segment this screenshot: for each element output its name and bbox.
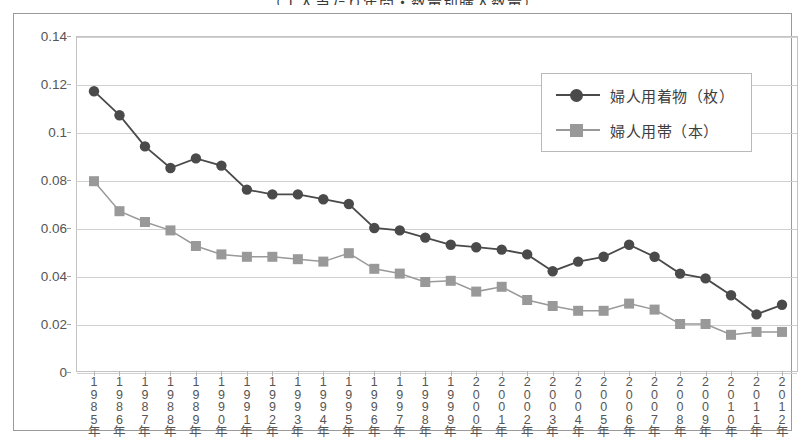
x-axis-tick-mark [629, 371, 630, 376]
y-axis-tick-label: 0.1 [48, 125, 67, 140]
data-point [293, 254, 303, 264]
x-axis-tick-mark [247, 371, 248, 376]
y-axis-tick-label: 0.02 [41, 317, 67, 332]
data-point [191, 241, 201, 251]
y-axis-tick-label: 0.06 [41, 221, 67, 236]
x-axis-tick-label: 1988年 [159, 376, 181, 439]
x-axis-tick-mark [502, 371, 503, 376]
chart-frame: 00.020.040.060.080.10.120.14 1985年1986年1… [13, 13, 792, 431]
circle-marker-icon [556, 87, 600, 103]
x-axis-tick-label: 2001年 [491, 376, 513, 439]
x-axis-tick-label: 1992年 [261, 376, 283, 439]
data-point [395, 225, 405, 235]
page-title: （１人当たり年間・数量別購入数量） [0, 0, 806, 5]
x-axis-tick-label: 1991年 [236, 376, 258, 439]
data-point [267, 189, 277, 199]
data-point [497, 244, 507, 254]
x-axis-tick-mark [298, 371, 299, 376]
x-axis-tick-label: 1990年 [210, 376, 232, 439]
x-axis-tick-mark [221, 371, 222, 376]
x-axis-tick-mark [119, 371, 120, 376]
data-point [395, 269, 405, 279]
data-point [599, 306, 609, 316]
data-point [522, 295, 532, 305]
data-point [318, 257, 328, 267]
x-axis-tick-mark [196, 371, 197, 376]
data-point [726, 290, 736, 300]
y-axis-tick-mark [67, 36, 71, 37]
data-point [573, 256, 583, 266]
data-point [446, 276, 456, 286]
data-point [242, 184, 252, 194]
x-axis-tick-label: 2007年 [644, 376, 666, 439]
data-point [548, 301, 558, 311]
chart-screenshot: （１人当たり年間・数量別購入数量） 00.020.040.060.080.10.… [0, 0, 806, 444]
data-point [242, 252, 252, 262]
x-axis-tick-label: 1985年 [83, 376, 105, 439]
x-axis-tick-label: 2006年 [618, 376, 640, 439]
x-axis-tick-label: 2000年 [465, 376, 487, 439]
y-axis-tick-mark [67, 372, 71, 373]
x-axis-tick-label: 2008年 [669, 376, 691, 439]
data-point [216, 249, 226, 259]
data-point [369, 223, 379, 233]
data-point [369, 264, 379, 274]
data-point [446, 240, 456, 250]
x-axis-tick-label: 2002年 [516, 376, 538, 439]
x-axis-tick-mark [400, 371, 401, 376]
y-axis-tick-label: 0 [59, 365, 67, 380]
x-axis-tick-label: 1999年 [440, 376, 462, 439]
y-axis-tick-mark [67, 132, 71, 133]
data-point [624, 299, 634, 309]
x-axis-tick-label: 2010年 [720, 376, 742, 439]
y-axis-tick-mark [67, 180, 71, 181]
legend-item-label: 婦人用帯（本） [610, 120, 719, 141]
x-axis-tick-label: 1986年 [108, 376, 130, 439]
x-axis-tick-mark [731, 371, 732, 376]
x-axis-tick-label: 2009年 [695, 376, 717, 439]
x-axis-tick-mark [425, 371, 426, 376]
x-axis-tick-mark [374, 371, 375, 376]
x-axis-tick-label: 1997年 [389, 376, 411, 439]
data-point [140, 141, 150, 151]
x-axis-tick-mark [476, 371, 477, 376]
y-axis-tick-mark [67, 324, 71, 325]
data-point [267, 252, 277, 262]
data-point [675, 319, 685, 329]
x-axis-tick-label: 1995年 [338, 376, 360, 439]
data-point [318, 194, 328, 204]
x-axis-tick-label: 1996年 [363, 376, 385, 439]
x-axis-tick-mark [706, 371, 707, 376]
data-point [701, 319, 711, 329]
data-point [140, 217, 150, 227]
data-point [216, 160, 226, 170]
data-point [777, 327, 787, 337]
data-point [752, 327, 762, 337]
y-axis-tick-label: 0.04 [41, 269, 67, 284]
y-axis-tick-label: 0.14 [41, 29, 67, 44]
x-axis-tick-mark [782, 371, 783, 376]
y-axis-tick-mark [67, 84, 71, 85]
data-point [650, 305, 660, 315]
data-point [344, 199, 354, 209]
x-axis-tick-mark [527, 371, 528, 376]
y-axis: 00.020.040.060.080.10.120.14 [14, 36, 71, 372]
data-point [700, 273, 710, 283]
y-axis-tick-label: 0.12 [41, 77, 67, 92]
data-point [420, 232, 430, 242]
legend: 婦人用着物（枚） 婦人用帯（本） [541, 73, 752, 152]
data-point [293, 189, 303, 199]
x-axis-tick-label: 1993年 [287, 376, 309, 439]
legend-item-label: 婦人用着物（枚） [610, 85, 734, 106]
x-axis-tick-mark [578, 371, 579, 376]
data-point [649, 252, 659, 262]
x-axis-tick-label: 2005年 [593, 376, 615, 439]
legend-item-0: 婦人用着物（枚） [556, 84, 734, 106]
x-axis-tick-label: 1987年 [134, 376, 156, 439]
gridline [77, 373, 797, 374]
data-point [777, 300, 787, 310]
data-point [675, 268, 685, 278]
x-axis-tick-mark [145, 371, 146, 376]
x-axis-tick-mark [349, 371, 350, 376]
x-axis-tick-label: 1998年 [414, 376, 436, 439]
